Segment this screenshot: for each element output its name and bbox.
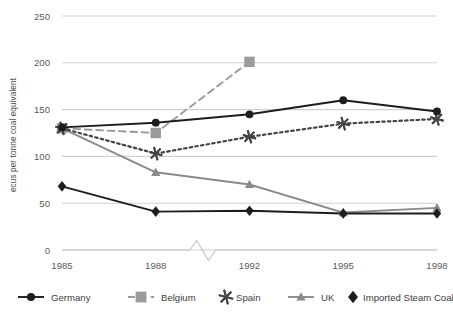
x-axis-with-break [62,241,437,261]
data-point-diamond [245,205,253,216]
y-tick-label: 200 [34,57,50,68]
x-tick-label: 1995 [333,260,354,271]
data-point-diamond [339,208,347,219]
x-tick-label: 1985 [51,260,72,271]
x-tick-label: 1988 [145,260,166,271]
y-tick-label: 0 [45,245,50,256]
legend-item-uk[interactable]: UK [288,292,335,303]
y-axis-ticks: 050100150200250 [34,11,50,256]
line-chart: ecus per tonne coal equivalent0501001502… [0,0,453,322]
asterisk-ray [221,292,232,303]
data-point-diamond [58,181,66,192]
series-line [62,128,437,212]
data-point-square [244,57,254,67]
y-tick-label: 50 [39,198,50,209]
legend-item-belgium[interactable]: Belgium [128,292,196,303]
data-point-circle [246,110,254,118]
data-point-circle [152,119,160,127]
data-point-circle [339,96,347,104]
y-tick-label: 250 [34,11,50,22]
square-marker-icon [136,292,147,303]
circle-marker-icon [27,293,35,301]
y-axis-title: ecus per tonne coal equivalent [9,77,18,192]
y-tick-label: 100 [34,151,50,162]
legend-label: Imported Steam Coal [363,292,453,303]
legend-label: Germany [51,292,91,303]
legend: GermanyBelgiumSpainUKImported Steam Coal [18,290,453,304]
data-point-asterisk [149,147,162,160]
asterisk-marker-icon [219,290,233,304]
legend-item-germany[interactable]: Germany [18,292,91,303]
series-group [55,57,443,219]
series-germany [58,96,441,131]
data-point-square [151,128,161,138]
legend-label: Belgium [161,292,196,303]
chart-canvas: ecus per tonne coal equivalent0501001502… [0,0,453,322]
data-point-diamond [152,206,160,217]
x-tick-label: 1998 [426,260,447,271]
y-tick-label: 150 [34,104,50,115]
data-point-circle [433,108,441,116]
data-point-circle [58,123,66,131]
x-tick-label: 1992 [239,260,260,271]
x-axis-ticks: 19851988199219951998 [51,260,447,271]
diamond-marker-icon [348,291,358,303]
x-axis-line [62,241,437,261]
legend-item-imported-steam-coal[interactable]: Imported Steam Coal [348,291,453,303]
legend-label: Spain [236,292,261,303]
legend-item-spain[interactable]: Spain [219,290,261,304]
legend-label: UK [321,292,335,303]
